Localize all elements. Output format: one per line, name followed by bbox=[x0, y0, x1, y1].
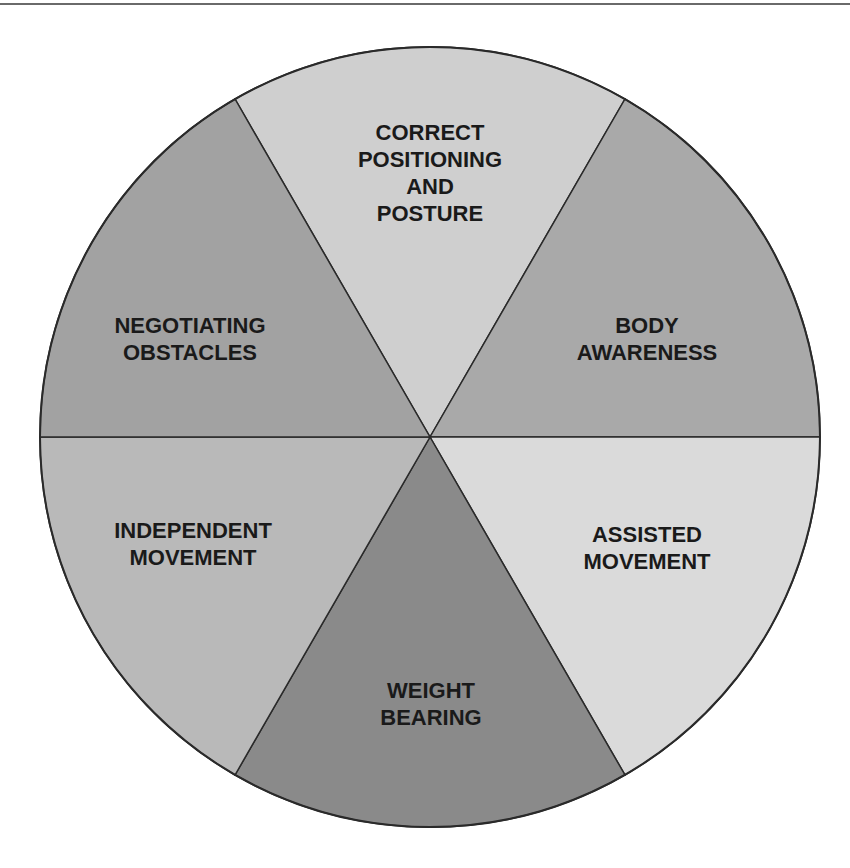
label-line: OBSTACLES bbox=[114, 339, 265, 366]
label-body-awareness: BODY AWARENESS bbox=[577, 312, 718, 366]
label-line: NEGOTIATING bbox=[114, 312, 265, 339]
label-line: ASSISTED bbox=[583, 521, 710, 548]
label-line: BODY bbox=[577, 312, 718, 339]
label-line: AND bbox=[358, 173, 502, 200]
label-weight-bearing: WEIGHT BEARING bbox=[380, 677, 481, 731]
label-line: BEARING bbox=[380, 704, 481, 731]
label-assisted-movement: ASSISTED MOVEMENT bbox=[583, 521, 710, 575]
label-line: WEIGHT bbox=[380, 677, 481, 704]
label-line: MOVEMENT bbox=[114, 544, 272, 571]
label-line: CORRECT bbox=[358, 119, 502, 146]
label-line: AWARENESS bbox=[577, 339, 718, 366]
label-negotiating-obstacles: NEGOTIATING OBSTACLES bbox=[114, 312, 265, 366]
label-line: POSITIONING bbox=[358, 146, 502, 173]
label-line: INDEPENDENT bbox=[114, 517, 272, 544]
label-independent-movement: INDEPENDENT MOVEMENT bbox=[114, 517, 272, 571]
label-correct-positioning-and-posture: CORRECT POSITIONING AND POSTURE bbox=[358, 119, 502, 227]
label-line: POSTURE bbox=[358, 200, 502, 227]
label-line: MOVEMENT bbox=[583, 548, 710, 575]
